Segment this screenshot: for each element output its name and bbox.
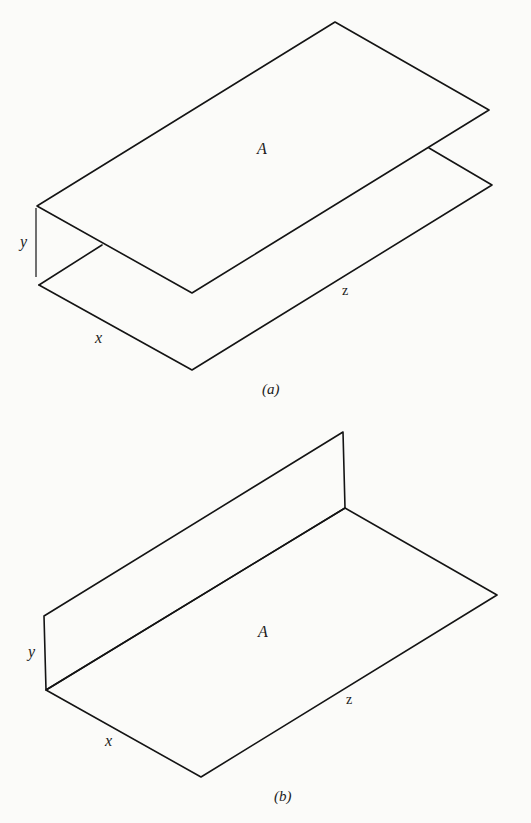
figure-b-area-label: A — [258, 624, 268, 640]
upper-plane — [37, 22, 489, 293]
figure-b-z-label: z — [346, 693, 352, 707]
figure-a-z-label: z — [342, 284, 348, 298]
figure-canvas — [0, 0, 531, 823]
figure-b-x-label: x — [105, 733, 112, 749]
lower-plane-front-edges — [39, 148, 492, 370]
figure-b-drawing — [44, 432, 497, 777]
figure-a-area-label: A — [257, 141, 267, 157]
figure-b-caption: (b) — [274, 789, 292, 804]
figure-a-x-label: x — [95, 330, 102, 346]
figure-a-y-label: y — [20, 234, 27, 250]
figure-a-drawing — [36, 22, 492, 370]
figure-b-y-label: y — [28, 644, 35, 660]
base-plane — [46, 508, 497, 777]
figure-a-caption: (a) — [262, 382, 280, 397]
vertical-plane — [44, 432, 345, 690]
lower-plane-left-back-edge — [39, 245, 102, 285]
